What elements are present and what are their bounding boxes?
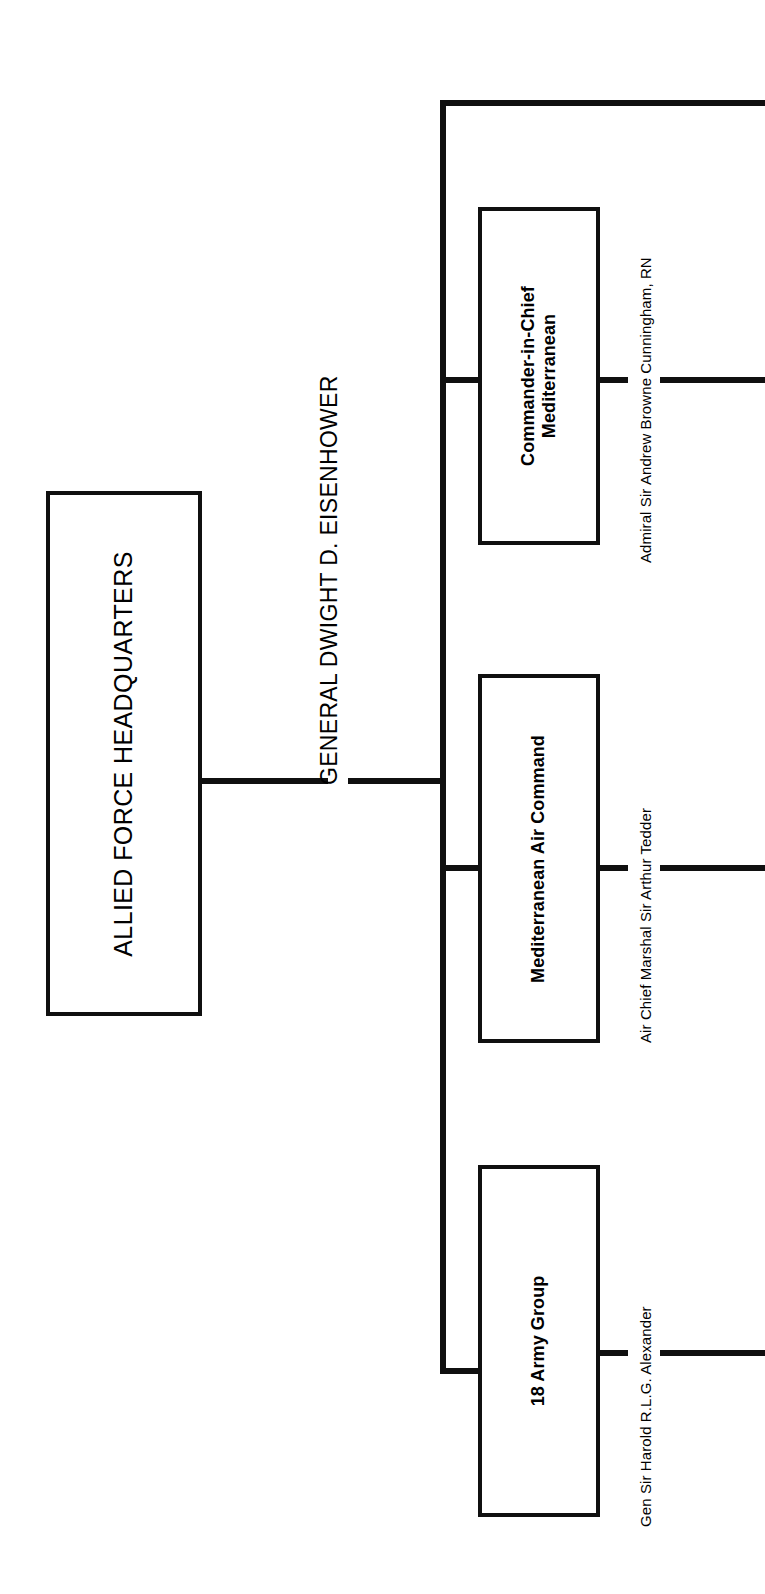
outgoing-stub-med-air <box>596 865 628 871</box>
bus-top-branch <box>440 100 765 106</box>
node-title-line-1: Commander-in-Chief <box>518 286 538 466</box>
distribution-bus <box>440 103 446 1374</box>
commander-caption-18-army-group: Gen Sir Harold R.L.G. Alexander <box>637 1306 654 1527</box>
commander-caption-commander-in-chief-mediterranean: Admiral Sir Andrew Browne Cunningham, RN <box>637 257 654 563</box>
node-title-commander-in-chief-mediterranean: Commander-in-Chief Mediterranean <box>518 286 560 466</box>
trunk-line-right-segment <box>348 778 446 784</box>
node-title-line-2: Mediterranean <box>539 314 559 438</box>
node-title-allied-force-headquarters: ALLIED FORCE HEADQUARTERS <box>109 551 139 956</box>
node-title-mediterranean-air-command: Mediterranean Air Command <box>528 735 549 983</box>
outgoing-line-18-army <box>660 1350 765 1356</box>
node-title-18-army-group: 18 Army Group <box>528 1276 549 1407</box>
trunk-line-left-segment <box>200 778 328 784</box>
node-mediterranean-air-command[interactable]: Mediterranean Air Command <box>478 674 600 1043</box>
node-18-army-group[interactable]: 18 Army Group <box>478 1165 600 1517</box>
commander-caption-mediterranean-air-command: Air Chief Marshal Sir Arthur Tedder <box>637 808 654 1043</box>
outgoing-stub-18-army <box>596 1350 628 1356</box>
org-chart-canvas: ALLIED FORCE HEADQUARTERS Commander-in-C… <box>0 0 765 1594</box>
outgoing-line-cinc-med <box>660 377 765 383</box>
outgoing-line-med-air <box>660 865 765 871</box>
commander-caption-allied-force-headquarters: GENERAL DWIGHT D. EISENHOWER <box>316 375 343 785</box>
node-allied-force-headquarters[interactable]: ALLIED FORCE HEADQUARTERS <box>46 491 202 1016</box>
node-commander-in-chief-mediterranean[interactable]: Commander-in-Chief Mediterranean <box>478 207 600 545</box>
outgoing-stub-cinc-med <box>596 377 628 383</box>
